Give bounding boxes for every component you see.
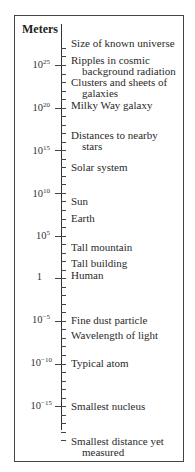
tick-mark <box>55 65 66 66</box>
tick-mark <box>61 176 66 177</box>
tick-mark <box>61 304 66 305</box>
tick-mark <box>61 219 66 220</box>
tick-mark <box>55 321 66 322</box>
tick-mark <box>55 108 66 109</box>
tick-mark <box>61 142 66 143</box>
tick-mark <box>61 389 66 390</box>
tick-label-1: 1 <box>20 271 42 282</box>
tick-mark <box>61 338 66 339</box>
tick-mark <box>61 82 66 83</box>
tick-mark <box>61 329 66 330</box>
tick-label-1e10: 1010 <box>20 187 50 199</box>
tick-mark <box>61 287 66 288</box>
tick-label-1e5: 105 <box>20 229 50 241</box>
label-tall-mountain: Tall mountain <box>71 242 132 253</box>
tick-mark <box>55 193 66 194</box>
label-known-universe: Size of known universe <box>71 38 175 49</box>
tick-mark <box>61 372 66 373</box>
label-solar-system: Solar system <box>71 162 128 173</box>
tick-mark <box>61 159 66 160</box>
label-earth: Earth <box>71 213 95 224</box>
unit-label: Meters <box>22 22 58 37</box>
label-fine-dust: Fine dust particle <box>71 315 147 326</box>
label-smallest-nucleus: Smallest nucleus <box>71 401 145 412</box>
tick-mark <box>61 440 66 441</box>
tick-mark <box>61 295 66 296</box>
tick-label-1e25: 1025 <box>20 58 50 70</box>
label-nearby-stars: Distances to nearbystars <box>71 130 158 152</box>
label-human: Human <box>71 270 103 281</box>
tick-mark <box>61 125 66 126</box>
tick-label-1e20: 1020 <box>20 101 50 113</box>
tick-mark <box>61 210 66 211</box>
tick-mark <box>55 406 66 407</box>
tick-mark <box>61 261 66 262</box>
label-typical-atom: Typical atom <box>71 358 129 369</box>
tick-mark <box>55 236 66 237</box>
tick-mark <box>61 381 66 382</box>
tick-label-1e-15: 10−15 <box>18 399 52 411</box>
tick-mark <box>55 150 66 151</box>
tick-mark <box>61 253 66 254</box>
label-smallest-distance: Smallest distance yetmeasured <box>71 436 164 458</box>
label-tall-building: Tall building <box>71 258 127 269</box>
tick-mark <box>61 355 66 356</box>
tick-mark <box>61 312 66 313</box>
tick-mark <box>61 99 66 100</box>
tick-mark <box>61 432 66 433</box>
tick-mark <box>55 364 66 365</box>
tick-mark <box>61 346 66 347</box>
tick-mark <box>61 270 66 271</box>
tick-mark <box>61 227 66 228</box>
label-wavelength-light: Wavelength of light <box>71 330 158 341</box>
label-sun: Sun <box>71 196 88 207</box>
tick-mark <box>61 201 66 202</box>
label-galaxy-clusters: Clusters and sheets ofgalaxies <box>71 77 167 99</box>
tick-mark <box>61 415 66 416</box>
tick-mark <box>55 278 66 279</box>
label-milky-way: Milky Way galaxy <box>71 100 152 111</box>
tick-mark <box>61 91 66 92</box>
tick-mark <box>61 244 66 245</box>
tick-mark <box>61 423 66 424</box>
tick-mark <box>61 56 66 57</box>
tick-mark <box>61 116 66 117</box>
tick-mark <box>61 167 66 168</box>
label-cosmic-ripples: Ripples in cosmicbackground radiation <box>71 55 176 77</box>
tick-mark <box>61 133 66 134</box>
tick-label-1e15: 1015 <box>20 144 50 156</box>
tick-mark <box>61 398 66 399</box>
tick-mark <box>61 184 66 185</box>
tick-label-1e-10: 10−10 <box>18 356 52 368</box>
tick-mark <box>61 74 66 75</box>
tick-label-1e-5: 10−5 <box>20 313 50 325</box>
tick-mark <box>61 48 66 49</box>
